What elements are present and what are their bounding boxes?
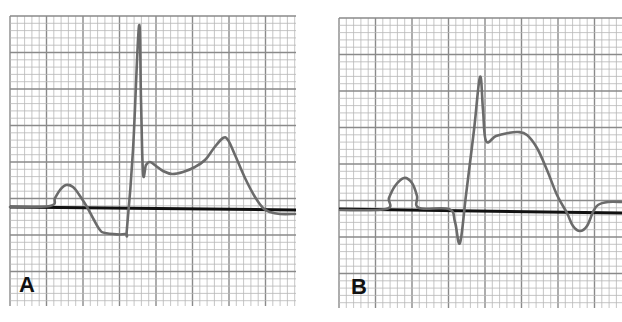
- panel-label-b: B: [351, 276, 367, 298]
- ecg-panel-b: B: [0, 0, 622, 322]
- ecg-strip-b: [0, 0, 622, 322]
